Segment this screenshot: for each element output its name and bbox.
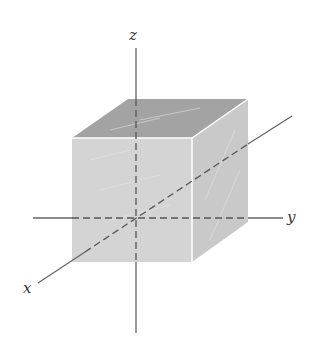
z-axis-label: z [129,28,137,43]
x-axis-lower [38,252,85,283]
x-axis-upper [248,116,292,144]
cube-front-face [72,138,192,262]
x-axis-label: x [23,281,31,296]
y-axis-label: y [287,210,295,225]
cube-diagram [0,0,314,348]
